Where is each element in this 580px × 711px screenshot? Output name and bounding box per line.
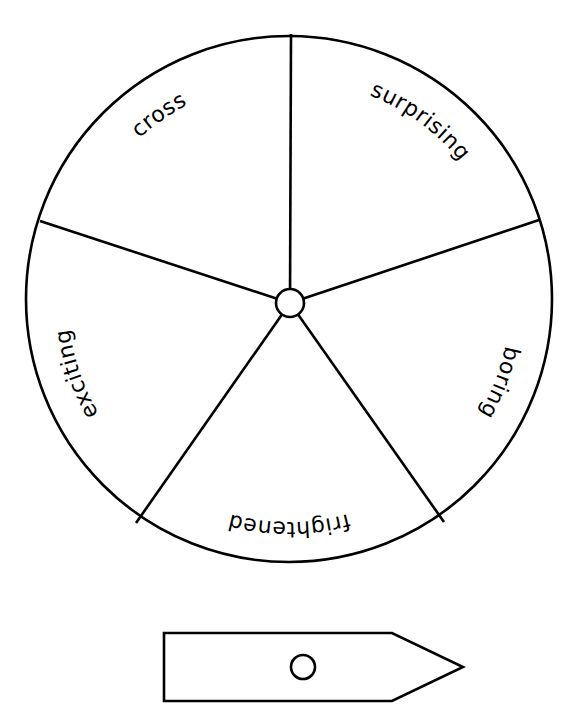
pointer-hole [291,655,315,679]
spoke-4 [136,303,290,523]
pointer-arrow [164,633,463,701]
spinner-diagram: cross surprising boring frightened excit… [0,0,580,711]
segment-label-exciting: exciting [50,328,103,424]
spoke-5 [40,221,290,303]
spoke-2 [290,220,539,303]
wheel-hub [276,289,304,317]
segment-label-boring: boring [475,344,525,423]
segment-label-frightened: frightened [225,509,353,542]
segment-label-surprising: surprising [367,77,475,165]
spinner-wheel: cross surprising boring frightened excit… [26,34,552,562]
segment-label-cross: cross [126,87,190,142]
spoke-1 [290,34,291,303]
spoke-3 [290,303,444,522]
wheel-spokes [40,34,539,523]
spinner-pointer [164,633,463,701]
